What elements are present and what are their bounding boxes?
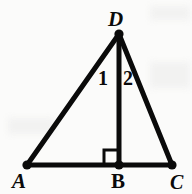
vertex-label-b: B: [111, 171, 125, 192]
segment-group: [27, 34, 172, 165]
vertex-label-c: C: [170, 172, 183, 192]
angle-label-1: 1: [98, 68, 108, 88]
triangle-diagram-svg: [0, 0, 192, 194]
vertex-label-a: A: [12, 171, 26, 192]
vertex-label-d: D: [108, 9, 123, 30]
vertex-dot-c: [167, 160, 176, 169]
segment-dc: [119, 34, 172, 165]
segment-ad: [27, 34, 119, 165]
vertex-dot-group: [22, 29, 176, 169]
angle-label-2: 2: [123, 68, 133, 88]
geometry-figure: D A B C 1 2: [0, 0, 192, 194]
